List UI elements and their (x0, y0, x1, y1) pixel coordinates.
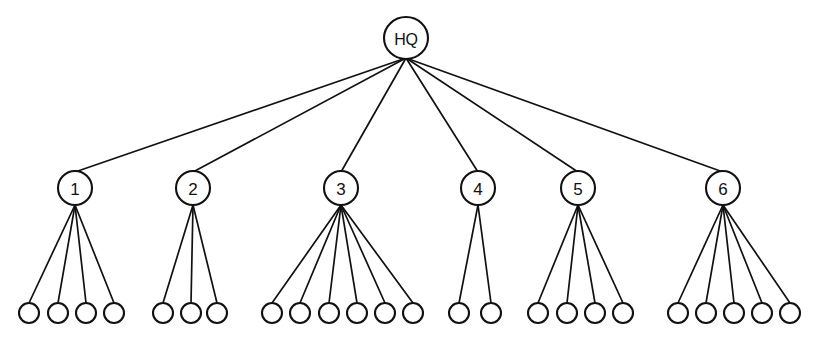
leaf-node[interactable] (19, 303, 39, 323)
node-2[interactable]: 2 (176, 171, 210, 205)
leaf-node[interactable] (585, 303, 605, 323)
leaf-nodes-group (19, 303, 800, 323)
edge-node-2-to-leaf-2-2 (191, 205, 193, 303)
tree-diagram-canvas: 123456 HQ (0, 0, 815, 338)
leaf-node[interactable] (262, 303, 282, 323)
leaf-node[interactable] (557, 303, 577, 323)
edge-node-4-to-leaf-4-1 (459, 205, 478, 303)
leaf-node[interactable] (290, 303, 310, 323)
leaf-node[interactable] (76, 303, 96, 323)
root-node-group: HQ (384, 17, 428, 59)
leaf-node[interactable] (481, 303, 501, 323)
node-3[interactable]: 3 (324, 171, 358, 205)
leaf-node[interactable] (153, 303, 173, 323)
leaf-node[interactable] (752, 303, 772, 323)
edge-node-4-to-leaf-4-2 (478, 205, 491, 303)
leaf-edges-group (29, 205, 790, 303)
leaf-node[interactable] (48, 303, 68, 323)
node-6-label: 6 (718, 180, 727, 199)
leaf-node[interactable] (104, 303, 124, 323)
leaf-node[interactable] (613, 303, 633, 323)
leaf-node[interactable] (319, 303, 339, 323)
leaf-node[interactable] (181, 303, 201, 323)
edge-node-6-to-leaf-6-2 (706, 205, 723, 303)
leaf-node[interactable] (780, 303, 800, 323)
edge-hq-to-node-4 (406, 58, 478, 172)
edge-node-3-to-leaf-3-5 (341, 205, 385, 303)
leaf-node[interactable] (347, 303, 367, 323)
node-1[interactable]: 1 (58, 171, 92, 205)
node-1-label: 1 (70, 180, 79, 199)
edge-node-5-to-leaf-5-3 (578, 205, 595, 303)
edge-hq-to-node-1 (75, 58, 406, 172)
root-node-label: HQ (394, 31, 417, 48)
branch-nodes-group: 123456 (58, 171, 740, 205)
leaf-node[interactable] (668, 303, 688, 323)
node-5[interactable]: 5 (561, 171, 595, 205)
root-node-hq[interactable]: HQ (384, 17, 428, 59)
node-3-label: 3 (336, 180, 345, 199)
leaf-node[interactable] (724, 303, 744, 323)
node-2-label: 2 (188, 180, 197, 199)
leaf-node[interactable] (528, 303, 548, 323)
edge-node-2-to-leaf-2-1 (163, 205, 193, 303)
root-edges-group (75, 58, 723, 172)
node-6[interactable]: 6 (706, 171, 740, 205)
leaf-node[interactable] (696, 303, 716, 323)
node-4-label: 4 (473, 180, 482, 199)
edge-hq-to-node-5 (406, 58, 578, 172)
edge-node-1-to-leaf-1-2 (58, 205, 75, 303)
edge-node-1-to-leaf-1-1 (29, 205, 75, 303)
edge-hq-to-node-6 (406, 58, 723, 172)
leaf-node[interactable] (375, 303, 395, 323)
edge-node-6-to-leaf-6-1 (678, 205, 723, 303)
edge-node-3-to-leaf-3-6 (341, 205, 413, 303)
leaf-node[interactable] (207, 303, 227, 323)
node-4[interactable]: 4 (461, 171, 495, 205)
node-5-label: 5 (573, 180, 582, 199)
edge-node-2-to-leaf-2-3 (193, 205, 217, 303)
tree-diagram-svg: 123456 HQ (0, 0, 815, 338)
edge-node-3-to-leaf-3-4 (341, 205, 357, 303)
leaf-node[interactable] (403, 303, 423, 323)
edge-node-5-to-leaf-5-4 (578, 205, 623, 303)
leaf-node[interactable] (449, 303, 469, 323)
